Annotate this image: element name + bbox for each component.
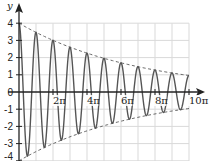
x-tick-label: 4π	[87, 95, 100, 106]
x-tick-label: 10π	[189, 95, 209, 106]
x-tick-label: 8π	[155, 95, 168, 106]
x-tick-label: 6π	[121, 95, 134, 106]
damped-oscillation-chart: x y 43210-1-2-3-4 2π4π6π8π10π	[0, 0, 209, 161]
y-tick-label: -2	[4, 121, 13, 132]
axes	[8, 3, 205, 161]
y-tick-label: 4	[7, 18, 13, 29]
y-axis-label: y	[6, 0, 13, 11]
x-tick-label: 2π	[53, 95, 66, 106]
y-tick-label: -1	[4, 104, 13, 115]
y-tick-label: 1	[7, 69, 13, 80]
y-tick-label: 2	[7, 52, 13, 63]
y-tick-label: -3	[4, 138, 13, 149]
y-tick-label: 3	[7, 35, 13, 46]
y-tick-label: 0	[7, 87, 13, 98]
y-tick-label: -4	[4, 151, 13, 161]
